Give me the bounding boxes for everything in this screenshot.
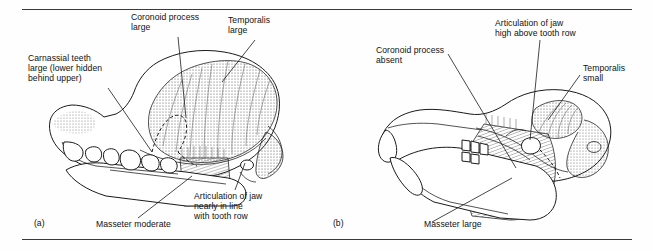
label-coronoid-process-large: Coronoid process large (131, 12, 199, 32)
rodent-skull (378, 90, 610, 220)
panel-id-a: (a) (34, 218, 45, 228)
label-masseter-large: Masseter large (424, 219, 482, 229)
label-temporalis-large: Temporalis large (228, 15, 270, 35)
label-masseter-moderate: Masseter moderate (96, 219, 171, 229)
comparative-skull-figure: Carnassial teeth large (lower hidden beh… (0, 0, 653, 251)
label-articulation-high: Articulation of jaw high above tooth row (495, 18, 576, 38)
label-carnassial-teeth: Carnassial teeth large (lower hidden beh… (28, 53, 102, 84)
label-articulation-in-line: Articulation of jaw nearly in line with … (194, 191, 262, 222)
label-temporalis-small: Temporalis small (583, 63, 625, 83)
panel-id-b: (b) (333, 218, 344, 228)
label-coronoid-process-absent: Coronoid process absent (376, 45, 444, 65)
